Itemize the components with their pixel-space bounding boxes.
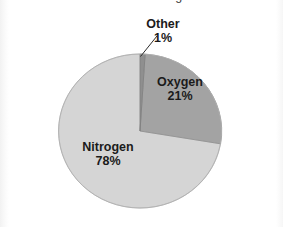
pie-label-other-name: Other: [123, 17, 203, 31]
pie-label-other: Other 1%: [123, 17, 203, 45]
pie-label-oxygen-value: 21%: [141, 89, 219, 103]
pie-label-nitrogen-name: Nitrogen: [62, 140, 154, 154]
pie-label-other-value: 1%: [123, 31, 203, 45]
pie-label-oxygen-name: Oxygen: [141, 75, 219, 89]
pie-label-oxygen: Oxygen 21%: [141, 75, 219, 103]
pie-chart-figure: tractor over the straight line. Other 1%…: [0, 0, 283, 227]
pie-label-nitrogen: Nitrogen 78%: [62, 140, 154, 168]
pie-label-nitrogen-value: 78%: [62, 154, 154, 168]
